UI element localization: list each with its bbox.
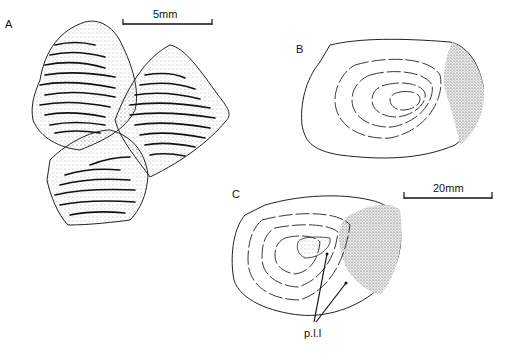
panel-b-scale	[302, 39, 485, 158]
scale-bar-label-20mm: 20mm	[433, 182, 464, 194]
panel-label-a: A	[5, 18, 12, 30]
figure-canvas	[0, 0, 505, 362]
panel-a-scales	[32, 21, 229, 225]
annotation-pll: p.l.l	[304, 327, 321, 339]
panel-label-c: C	[232, 188, 240, 200]
panel-c-scale	[232, 196, 401, 322]
panel-label-b: B	[296, 43, 303, 55]
scale-bar-label-5mm: 5mm	[153, 8, 177, 20]
